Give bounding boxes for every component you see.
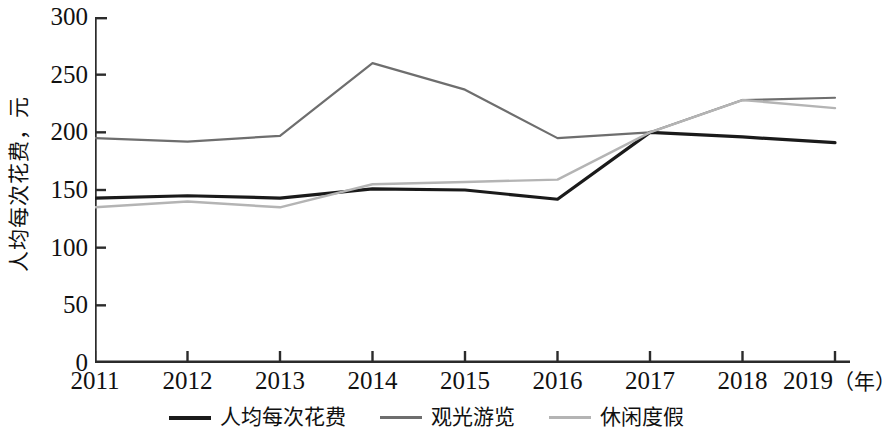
series-lines — [95, 63, 835, 207]
x-tick-label: 2017 — [610, 366, 690, 396]
chart-legend: 人均每次花费观光游览休闲度假 — [0, 402, 853, 433]
x-axis-tick-marks — [95, 351, 835, 362]
plot-svg — [95, 17, 850, 363]
legend-item[interactable]: 观光游览 — [380, 407, 515, 428]
legend-line-swatch — [169, 416, 211, 420]
y-tick-label: 200 — [30, 119, 88, 144]
x-tick-label: 2018 — [703, 366, 783, 396]
x-tick-label: 2019（年） — [783, 366, 887, 397]
legend-line-swatch — [380, 416, 422, 419]
x-tick-label: 2014 — [333, 366, 413, 396]
legend-item[interactable]: 人均每次花费 — [169, 407, 346, 428]
legend-label: 休闲度假 — [600, 407, 684, 428]
x-tick-label: 2015 — [425, 366, 505, 396]
x-tick-label: 2016 — [518, 366, 598, 396]
x-tick-label: 2012 — [148, 366, 228, 396]
y-tick-label: 100 — [30, 235, 88, 260]
x-tick-label: 2011 — [55, 366, 135, 396]
legend-label: 人均每次花费 — [220, 407, 346, 428]
series-line — [95, 132, 835, 199]
legend-line-swatch — [549, 416, 591, 419]
y-tick-label: 300 — [30, 4, 88, 29]
plot-area — [95, 17, 850, 363]
y-tick-label: 50 — [30, 292, 88, 317]
y-axis-tick-labels: 050100150200250300 — [26, 0, 88, 380]
legend-item[interactable]: 休闲度假 — [549, 407, 684, 428]
series-line — [95, 63, 835, 141]
legend-label: 观光游览 — [431, 407, 515, 428]
y-tick-label: 250 — [30, 62, 88, 87]
x-axis-unit-label: （年） — [833, 370, 887, 394]
x-axis-tick-labels: 201120122013201420152016201720182019（年） — [95, 366, 855, 400]
x-tick-label: 2013 — [240, 366, 320, 396]
y-tick-label: 150 — [30, 177, 88, 202]
